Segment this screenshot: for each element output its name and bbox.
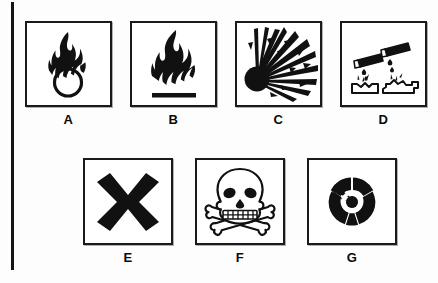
hazard-box-g[interactable] (307, 158, 397, 245)
hazard-cell-f[interactable]: F (195, 158, 285, 265)
radioactive-trefoil-icon (326, 176, 378, 228)
hazard-box-c[interactable] (235, 21, 322, 107)
hazard-label-e: E (123, 251, 132, 265)
hazard-label-d: D (379, 113, 389, 127)
hazard-label-f: F (236, 251, 244, 265)
hazard-label-g: G (347, 251, 358, 265)
hazard-cell-b[interactable]: B (130, 21, 217, 127)
hazard-box-a[interactable] (25, 21, 112, 107)
hazard-label-a: A (64, 113, 74, 127)
hazard-box-b[interactable] (130, 21, 217, 107)
hazard-label-c: C (274, 113, 284, 127)
hazard-symbols-figure: A B (0, 0, 438, 283)
hazard-cell-c[interactable]: C (235, 21, 322, 127)
hazard-cell-g[interactable]: G (307, 158, 397, 265)
hazard-row-1: A B (25, 21, 427, 127)
hazard-box-f[interactable] (195, 158, 285, 245)
hazard-cell-e[interactable]: E (83, 158, 173, 265)
explosive-exploding-bomb-icon (237, 23, 320, 105)
hazard-box-d[interactable] (340, 21, 427, 107)
toxic-skull-and-crossbones-icon (204, 167, 276, 237)
hazard-row-2: E (83, 158, 397, 265)
harmful-irritant-cross-icon (94, 171, 162, 233)
oxidising-flame-over-circle-icon (37, 30, 101, 98)
page-edge-rule (11, 2, 14, 270)
hazard-box-e[interactable] (83, 158, 173, 245)
hazard-cell-d[interactable]: D (340, 21, 427, 127)
flammable-flame-icon (143, 29, 205, 99)
hazard-cell-a[interactable]: A (25, 21, 112, 127)
hazard-label-b: B (169, 113, 179, 127)
corrosive-acid-drip-icon (348, 31, 420, 97)
